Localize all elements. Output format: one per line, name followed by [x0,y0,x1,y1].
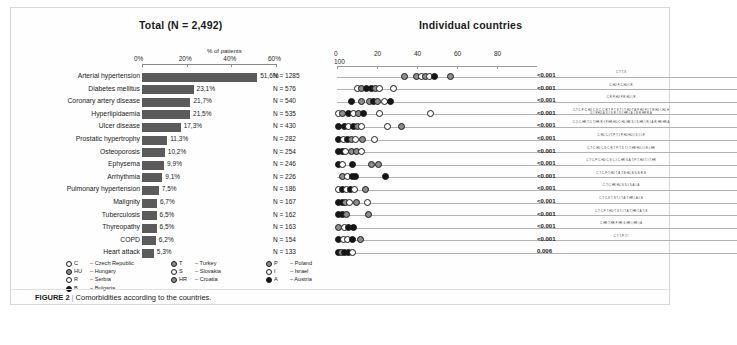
country-dot[interactable] [401,73,408,80]
figure-caption-text: Comorbidities according to the countries… [76,293,212,302]
bar-rect[interactable] [142,136,167,145]
country-dot[interactable] [357,236,364,243]
bar-row: Thyreopathy6,5%N = 163 [11,222,329,234]
bar-value-label: 5,3% [157,248,172,255]
bar-rect[interactable] [142,211,157,220]
country-dot[interactable] [352,173,359,180]
legend-name-i: – Israel [290,268,308,274]
bar-rect[interactable] [142,148,165,157]
legend-name-r: – Serbia [90,276,111,282]
bar-n-label: N = 540 [273,97,296,104]
legend-name-hu: – Hungary [90,268,116,274]
bar-value-label: 7,5% [162,185,177,192]
bar-n-label: N = 133 [273,248,296,255]
bar-rect[interactable] [142,98,190,107]
bar-rect[interactable] [142,236,156,245]
bar-rect[interactable] [142,161,164,170]
bar-row: Prostatic hypertrophy11,3%N = 282 [11,134,329,146]
country-dot[interactable] [358,98,365,105]
dot-row: <0.001C, HU; C, I; T, P; T, I; P, HU; HU… [329,134,671,146]
individual-countries-panel: Individual countries 100 020406080 <0.00… [329,8,671,306]
country-dot[interactable] [351,186,358,193]
p-value-label: 0.006 [537,248,552,254]
legend-marker-s [171,269,177,275]
country-dot[interactable] [343,211,350,218]
country-dot[interactable] [339,161,346,168]
legend-marker-r [66,277,72,283]
country-dot[interactable] [374,98,381,105]
country-code-note: C, HU; P, C, HU; I, R [572,84,670,87]
country-dot[interactable] [398,123,405,130]
country-dot[interactable] [376,85,383,92]
country-dot[interactable] [358,148,365,155]
country-dot[interactable] [346,199,353,206]
country-dot[interactable] [349,236,356,243]
country-dot[interactable] [431,73,438,80]
figure-caption: FIGURE 2|Comorbidities according to the … [35,293,211,302]
bar-rect[interactable] [142,110,190,119]
country-dot[interactable] [364,199,371,206]
country-legend: C– Czech RepublicHU– HungaryR– SerbiaB– … [66,260,336,296]
country-dot[interactable] [387,98,394,105]
right-tick-mark-2 [417,66,418,69]
right-tick-mark-0 [337,66,338,69]
bar-n-label: N = 246 [273,160,296,167]
bar-rect[interactable] [142,224,157,233]
country-code-note: C, HR; T, HR; P, HR; S, HR; I, HR; I, A [572,222,670,225]
country-dot[interactable] [349,249,356,256]
dot-row: <0.001C, T; C, P; T, HU; T, A; T, B; HU,… [329,172,671,184]
legend-marker-hu [66,269,72,275]
country-dot[interactable] [362,186,369,193]
country-dot[interactable] [365,211,372,218]
country-dot[interactable] [350,224,357,231]
bar-rect[interactable] [142,199,157,208]
legend-code-s: S [179,268,183,274]
country-dot[interactable] [427,110,434,117]
bar-label: Thyreopathy [102,223,140,230]
country-dot[interactable] [371,136,378,143]
bar-rect[interactable] [142,249,154,258]
left-tick-mark-2 [231,64,232,67]
country-dot[interactable] [447,73,454,80]
legend-marker-t [171,261,177,267]
p-value-label: <0.001 [537,148,556,154]
bar-label: Pulmonary hypertension [67,185,140,192]
country-code-note: C, T; C, S; T, S; T, I; T, A; T, HR; I, … [572,197,670,200]
bar-value-label: 10,2% [168,148,186,155]
country-dot[interactable] [375,161,382,168]
country-dot[interactable] [348,98,355,105]
bar-row: COPD6,2%N = 154 [11,235,329,247]
country-dot[interactable] [360,110,367,117]
p-value-label: <0.001 [537,85,556,91]
country-dot[interactable] [353,199,360,206]
country-dot[interactable] [359,136,366,143]
country-dot[interactable] [384,123,391,130]
bar-rect[interactable] [142,85,194,94]
bar-rect[interactable] [142,123,181,132]
legend-marker-c [66,261,72,267]
country-dot[interactable] [382,173,389,180]
country-dot[interactable] [352,136,359,143]
bar-rect[interactable] [142,173,162,182]
country-dot[interactable] [376,110,383,117]
figure-card: Total (N = 2,492) % of patients 0%20%40%… [10,7,670,305]
bar-rect[interactable] [142,73,257,82]
bar-value-label: 21,7% [193,97,211,104]
country-code-note: C, T; C, P; T, HU; T, A; T, B; HU, B; S,… [572,172,670,175]
p-value-label: <0.001 [537,160,556,166]
p-value-label: <0.001 [537,135,556,141]
country-dot[interactable] [358,123,365,130]
right-tick-label-4: 80 [494,50,501,57]
country-dot[interactable] [349,161,356,168]
country-dot[interactable] [390,85,397,92]
legend-marker-i [266,269,272,275]
left-tick-mark-3 [276,64,277,67]
dot-row: <0.001C, C; C, HR; T, C; T, HR; R, I; P,… [329,121,671,133]
caption-divider [11,289,671,290]
country-dot[interactable] [368,161,375,168]
bar-rect[interactable] [142,186,159,195]
dot-row: <0.001C, T; C, P; T, HU; T, S; T, I; T, … [329,210,671,222]
bar-value-label: 11,3% [170,135,188,142]
bar-value-label: 6,7% [160,198,175,205]
bar-row: Malignity6,7%N = 167 [11,197,329,209]
